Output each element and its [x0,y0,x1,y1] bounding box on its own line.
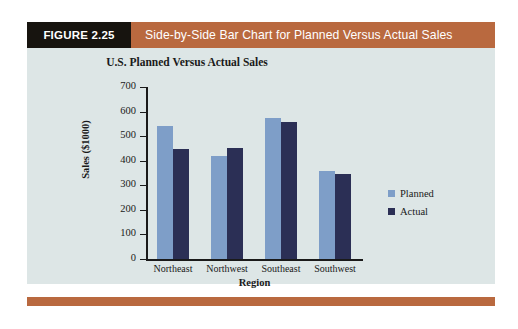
x-axis-label-northeast: Northeast [146,263,200,274]
figure-number-label: FIGURE 2.25 [43,29,114,41]
x-axis-label-southwest: Southwest [308,263,362,274]
x-axis-title: Region [146,277,363,288]
legend-label-actual: Actual [400,206,428,217]
bar-actual-southeast [281,122,297,259]
figure-caption-box: Side-by-Side Bar Chart for Planned Versu… [131,22,495,48]
x-axis-label-northwest: Northwest [200,263,254,274]
chart-title: U.S. Planned Versus Actual Sales [27,56,347,68]
y-axis-tick-label: 500 [120,129,140,140]
plot-area [146,87,362,259]
legend-item-planned: Planned [388,188,434,199]
bar-actual-southwest [335,174,351,259]
y-axis-tick-label: 700 [120,80,140,91]
bar-planned-northeast [157,126,173,259]
bottom-rule [27,297,495,306]
bar-actual-northeast [173,149,189,259]
y-axis-tick-label: 600 [120,105,140,116]
bar-group [157,87,189,259]
bar-planned-southeast [265,118,281,259]
legend-swatch-actual [388,208,395,215]
bar-planned-northwest [211,156,227,259]
y-axis-tick-label: 400 [120,154,140,165]
figure-number-box: FIGURE 2.25 [27,22,131,48]
figure-header-bar: FIGURE 2.25 Side-by-Side Bar Chart for P… [27,22,495,48]
bar-group [265,87,297,259]
x-axis-label-southeast: Southeast [254,263,308,274]
figure-panel: U.S. Planned Versus Actual Sales Sales (… [27,48,495,284]
x-axis-line [146,259,363,261]
bar-group [211,87,243,259]
y-axis-tick-label: 300 [120,178,140,189]
legend-label-planned: Planned [400,188,434,199]
y-axis-title: Sales ($1000) [80,100,91,200]
figure-block: FIGURE 2.25 Side-by-Side Bar Chart for P… [27,22,495,284]
bar-planned-southwest [319,171,335,259]
legend-item-actual: Actual [388,206,434,217]
y-axis-tick-label: 100 [120,227,140,238]
legend-swatch-planned [388,190,395,197]
y-axis-tick-label: 0 [131,252,140,263]
y-axis-tick-label: 200 [120,203,140,214]
y-axis-tick: 0 [140,259,146,260]
chart-legend: PlannedActual [388,188,434,224]
figure-caption-text: Side-by-Side Bar Chart for Planned Versu… [145,28,453,42]
bar-actual-northwest [227,148,243,259]
bar-group [319,87,351,259]
